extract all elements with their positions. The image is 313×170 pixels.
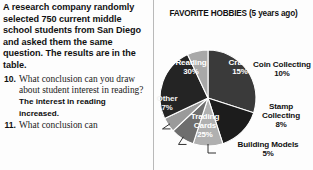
question-number-11: 11.	[3, 120, 19, 131]
question-body-10: What conclusion can you draw about stude…	[19, 74, 146, 120]
question-number-10: 10.	[3, 74, 19, 85]
question-text-10: What conclusion can you draw about stude…	[19, 74, 143, 95]
textbook-page: A research company randomly selected 750…	[0, 0, 313, 170]
intro-paragraph: A research company randomly selected 750…	[3, 2, 146, 72]
left-text-column: A research company randomly selected 750…	[0, 0, 150, 170]
chart-panel: FAVORITE HOBBIES (5 years ago) Reading 3…	[154, 0, 313, 170]
question-item-10: 10. What conclusion can you draw about s…	[3, 74, 146, 120]
pie-slice-group	[160, 50, 256, 146]
student-answer-10: The interest in reading increased.	[19, 97, 106, 117]
pie-chart-svg	[154, 0, 313, 170]
pie-chart: Reading 30% Crafts 15% Other 7% Trading …	[154, 0, 313, 170]
question-text-11: What conclusion can	[19, 120, 146, 131]
question-item-11: 11. What conclusion can	[3, 120, 146, 131]
